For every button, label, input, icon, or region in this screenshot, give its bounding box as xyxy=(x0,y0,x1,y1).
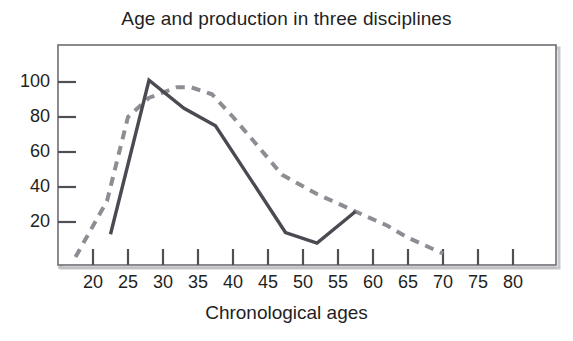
ytick-label-40: 40 xyxy=(4,176,50,197)
xtick-label-30: 30 xyxy=(146,272,180,293)
xtick-label-45: 45 xyxy=(251,272,285,293)
xtick-label-50: 50 xyxy=(286,272,320,293)
xtick-label-35: 35 xyxy=(181,272,215,293)
ytick-label-20: 20 xyxy=(4,211,50,232)
chart-figure: Age and production in three disciplines xyxy=(0,0,573,341)
ytick-label-80: 80 xyxy=(4,106,50,127)
xtick-label-75: 75 xyxy=(461,272,495,293)
xtick-label-55: 55 xyxy=(321,272,355,293)
plot-frame xyxy=(58,45,556,265)
xtick-label-25: 25 xyxy=(111,272,145,293)
xtick-label-40: 40 xyxy=(216,272,250,293)
xtick-label-65: 65 xyxy=(391,272,425,293)
xtick-label-70: 70 xyxy=(426,272,460,293)
ytick-label-100: 100 xyxy=(4,71,50,92)
xtick-label-60: 60 xyxy=(356,272,390,293)
xtick-label-20: 20 xyxy=(76,272,110,293)
plot-area: 100 80 60 40 20 20 25 30 35 40 45 50 55 … xyxy=(0,0,573,341)
xtick-label-80: 80 xyxy=(496,272,530,293)
x-axis-label: Chronological ages xyxy=(0,302,573,324)
ytick-label-60: 60 xyxy=(4,141,50,162)
